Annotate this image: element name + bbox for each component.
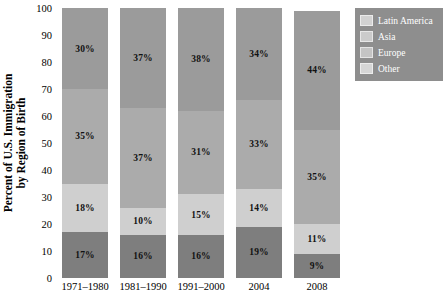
- bar-segment[interactable]: 16%: [120, 235, 166, 278]
- bar-segment[interactable]: 34%: [236, 8, 282, 100]
- bar-segment-label: 38%: [191, 54, 211, 64]
- bar-segment-label: 10%: [133, 216, 153, 226]
- bar-segment-label: 16%: [133, 251, 153, 261]
- bar-segment-label: 33%: [249, 139, 269, 149]
- legend-swatch-icon: [360, 47, 373, 58]
- bar-segment[interactable]: 44%: [294, 11, 340, 130]
- bar-segment[interactable]: 38%: [178, 8, 224, 111]
- legend-item-label: Asia: [378, 32, 395, 42]
- bar-segment[interactable]: 9%: [294, 254, 340, 278]
- bar-segment[interactable]: 37%: [120, 108, 166, 208]
- y-axis-tick-label: 40: [24, 165, 52, 176]
- bar-segment-label: 15%: [191, 210, 211, 220]
- legend-item[interactable]: Europe: [360, 45, 439, 60]
- bar-segment[interactable]: 33%: [236, 100, 282, 189]
- bar-column[interactable]: 19%14%33%34%: [236, 8, 282, 278]
- legend-item[interactable]: Latin America: [360, 13, 439, 28]
- legend-item-label: Other: [378, 64, 400, 74]
- legend-swatch-icon: [360, 15, 373, 26]
- bar-segment-label: 18%: [75, 203, 95, 213]
- bar-column[interactable]: 9%11%35%44%: [294, 8, 340, 278]
- y-axis-tick-label: 80: [24, 57, 52, 68]
- y-axis-tick-label: 50: [24, 138, 52, 149]
- bar-segment[interactable]: 14%: [236, 189, 282, 227]
- bar-segment[interactable]: 15%: [178, 194, 224, 235]
- bar-segment-label: 19%: [249, 247, 269, 257]
- bar-segment-label: 11%: [307, 234, 326, 244]
- bar-segment[interactable]: 11%: [294, 224, 340, 254]
- bar-segment[interactable]: 37%: [120, 8, 166, 108]
- bar-segment[interactable]: 35%: [62, 89, 108, 184]
- bar-segment[interactable]: 16%: [178, 235, 224, 278]
- bar-segment-label: 34%: [249, 49, 269, 59]
- legend-item-label: Latin America: [378, 16, 433, 26]
- x-axis-ticks: 1971–19801981–19901991–200020042008: [56, 281, 346, 301]
- bar-segment-label: 37%: [133, 53, 153, 63]
- legend-swatch-icon: [360, 63, 373, 74]
- y-axis-tick-label: 20: [24, 219, 52, 230]
- bar-column[interactable]: 17%18%35%30%: [62, 8, 108, 278]
- bar-segment-label: 30%: [75, 44, 95, 54]
- bar-segment-label: 14%: [249, 203, 269, 213]
- bar-segment-label: 35%: [75, 131, 95, 141]
- bar-segment[interactable]: 17%: [62, 232, 108, 278]
- y-axis-ticks: 0102030405060708090100: [24, 0, 52, 285]
- legend-item[interactable]: Asia: [360, 29, 439, 44]
- x-axis-tick-label: 2008: [277, 281, 357, 292]
- y-axis-tick-label: 10: [24, 246, 52, 257]
- plot-area: 17%18%35%30%16%10%37%37%16%15%31%38%19%1…: [56, 8, 346, 278]
- y-axis-title-line1: Percent of U.S. Immigration: [2, 73, 15, 212]
- bar-segment[interactable]: 19%: [236, 227, 282, 278]
- bar-column[interactable]: 16%15%31%38%: [178, 8, 224, 278]
- y-axis-tick-label: 90: [24, 30, 52, 41]
- bar-segment-label: 16%: [191, 251, 211, 261]
- bar-segment-label: 17%: [75, 250, 95, 260]
- bar-segment[interactable]: 35%: [294, 130, 340, 225]
- y-axis-tick-label: 70: [24, 84, 52, 95]
- y-axis-tick-label: 30: [24, 192, 52, 203]
- bar-segment[interactable]: 10%: [120, 208, 166, 235]
- legend-item-label: Europe: [378, 48, 405, 58]
- legend-swatch-icon: [360, 31, 373, 42]
- bar-segment-label: 37%: [133, 153, 153, 163]
- bar-segment[interactable]: 18%: [62, 184, 108, 233]
- bar-segment-label: 44%: [307, 65, 327, 75]
- chart-legend: Latin AmericaAsiaEuropeOther: [355, 8, 443, 81]
- bar-segment-label: 35%: [307, 172, 327, 182]
- y-axis-tick-label: 60: [24, 111, 52, 122]
- legend-item[interactable]: Other: [360, 61, 439, 76]
- bar-segment[interactable]: 30%: [62, 8, 108, 89]
- chart-container: Percent of U.S. Immigration by Region of…: [0, 0, 447, 303]
- bar-segment-label: 31%: [191, 147, 211, 157]
- bar-column[interactable]: 16%10%37%37%: [120, 8, 166, 278]
- bar-segment[interactable]: 31%: [178, 111, 224, 195]
- bar-segment-label: 9%: [310, 261, 325, 271]
- y-axis-tick-label: 100: [24, 3, 52, 14]
